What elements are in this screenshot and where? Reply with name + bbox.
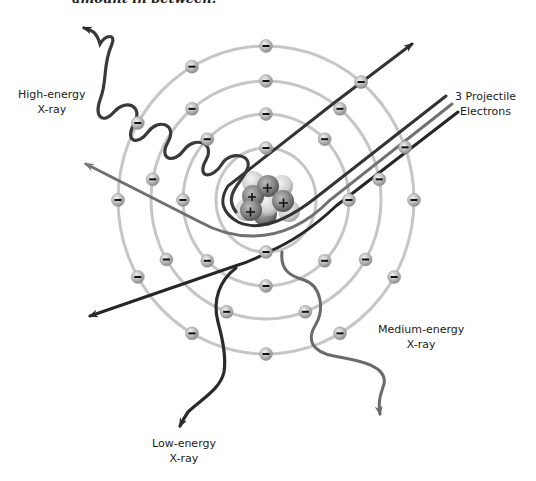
electron-minus-icon	[343, 194, 356, 207]
low-energy-xray-wave	[180, 268, 236, 426]
electron-minus-icon	[131, 117, 144, 130]
electron-minus-icon	[146, 173, 159, 186]
electron-minus-icon	[177, 194, 190, 207]
electron-minus-icon	[160, 253, 173, 266]
electron-minus-icon	[260, 108, 273, 121]
electron-minus-icon	[260, 280, 273, 293]
electron-minus-icon	[359, 253, 372, 266]
electron-minus-icon	[373, 173, 386, 186]
electron-minus-icon	[408, 194, 421, 207]
medium-energy-xray-wave	[282, 252, 385, 414]
high-energy-xray-wave	[84, 28, 248, 212]
electron-minus-icon	[260, 75, 273, 88]
cut-off-caption: amount in between.	[72, 0, 216, 6]
electron-minus-icon	[112, 194, 125, 207]
electron-minus-icon	[260, 246, 273, 259]
nucleus	[235, 171, 300, 226]
electron-minus-icon	[186, 327, 199, 340]
label-medium-energy-xray: Medium-energy X-ray	[378, 322, 464, 352]
electron-minus-icon	[299, 305, 312, 318]
atom-diagram-svg	[0, 0, 536, 481]
electron-minus-icon	[201, 254, 214, 267]
electron-minus-icon	[260, 348, 273, 361]
electron-minus-icon	[399, 141, 412, 154]
electron-minus-icon	[201, 133, 214, 146]
electron-minus-icon	[318, 254, 331, 267]
label-high-energy-xray: High-energy X-ray	[18, 87, 86, 117]
electron-minus-icon	[318, 133, 331, 146]
electron-minus-icon	[131, 271, 144, 284]
electron-minus-icon	[355, 76, 368, 89]
electron-minus-icon	[333, 102, 346, 115]
electron-minus-icon	[220, 305, 233, 318]
electron-minus-icon	[186, 60, 199, 73]
label-low-energy-xray: Low-energy X-ray	[152, 436, 216, 466]
label-projectile-electrons: 3 Projectile Electrons	[455, 89, 516, 119]
electron-minus-icon	[334, 327, 347, 340]
electron-minus-icon	[260, 40, 273, 53]
electron-minus-icon	[260, 142, 273, 155]
xray-production-diagram: amount in between.	[0, 0, 536, 481]
electron-minus-icon	[186, 102, 199, 115]
electron-minus-icon	[388, 271, 401, 284]
